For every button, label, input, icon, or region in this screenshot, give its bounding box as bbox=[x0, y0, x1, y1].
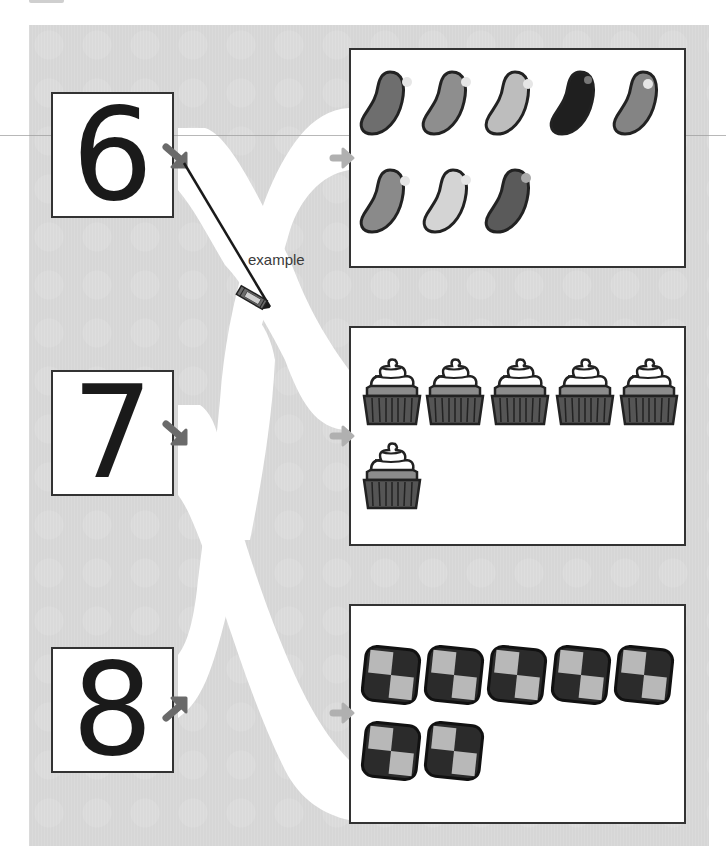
cookie-group bbox=[361, 645, 673, 780]
arrow-down-right-icon bbox=[166, 424, 186, 444]
arrow-right-icon bbox=[333, 427, 353, 445]
checkered-cookie-icon bbox=[424, 721, 483, 780]
jelly-bean-icon bbox=[424, 170, 466, 232]
checkered-cookie-icon bbox=[487, 645, 546, 704]
worksheet-overlay bbox=[0, 0, 726, 864]
arrow-down-right-icon bbox=[166, 147, 186, 167]
crayon-icon bbox=[236, 286, 272, 313]
checkered-cookie-icon bbox=[614, 645, 673, 704]
example-line bbox=[184, 163, 270, 307]
arrow-right-icon bbox=[333, 149, 353, 167]
cupcake-group bbox=[364, 360, 677, 508]
cupcake-icon bbox=[621, 360, 677, 424]
cupcake-icon bbox=[364, 360, 420, 424]
jelly-bean-icon bbox=[423, 72, 465, 134]
jelly-bean-icon bbox=[486, 72, 528, 134]
checkered-cookie-icon bbox=[361, 645, 420, 704]
checkered-cookie-icon bbox=[361, 721, 420, 780]
cupcake-icon bbox=[492, 360, 548, 424]
checkered-cookie-icon bbox=[424, 645, 483, 704]
example-label: example bbox=[248, 251, 305, 268]
arrow-right-icon bbox=[333, 704, 353, 722]
cupcake-icon bbox=[557, 360, 613, 424]
arrow-up-right-icon bbox=[166, 698, 186, 718]
jelly-bean-icon bbox=[361, 72, 403, 134]
cupcake-icon bbox=[427, 360, 483, 424]
jelly-bean-group bbox=[361, 72, 656, 232]
jelly-bean-icon bbox=[361, 170, 403, 232]
cupcake-icon bbox=[364, 444, 420, 508]
checkered-cookie-icon bbox=[551, 645, 610, 704]
